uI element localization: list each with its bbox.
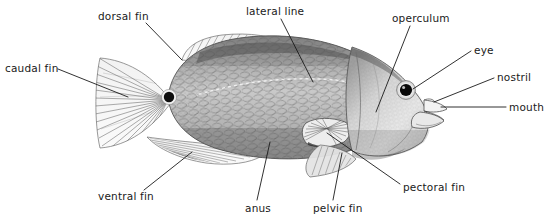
leader-ventral-fin: [144, 152, 192, 190]
fish-anatomy-diagram: dorsal fin lateral line operculum caudal…: [0, 0, 546, 217]
label-ventral-fin: ventral fin: [98, 190, 154, 202]
eye-shape: [397, 81, 416, 100]
label-anus: anus: [245, 202, 271, 214]
caudal-spot: [161, 89, 176, 104]
label-eye: eye: [474, 44, 494, 56]
label-pelvic-fin: pelvic fin: [313, 202, 363, 214]
label-pectoral-fin: pectoral fin: [403, 181, 465, 193]
leader-eye: [413, 51, 471, 89]
label-lateral-line: lateral line: [246, 5, 304, 17]
caudal-fin-shape: [94, 58, 170, 150]
label-operculum: operculum: [392, 12, 450, 24]
label-dorsal-fin: dorsal fin: [98, 10, 149, 22]
fish-illustration: dorsal fin lateral line operculum caudal…: [0, 0, 546, 217]
label-caudal-fin: caudal fin: [5, 62, 59, 74]
label-mouth: mouth: [509, 101, 544, 113]
fish-body: [94, 30, 447, 177]
leader-dorsal-fin: [146, 23, 182, 60]
fish-head: [340, 40, 447, 170]
leader-nostril: [434, 78, 494, 102]
label-nostril: nostril: [497, 71, 531, 83]
pectoral-fin-shape: [302, 118, 350, 147]
